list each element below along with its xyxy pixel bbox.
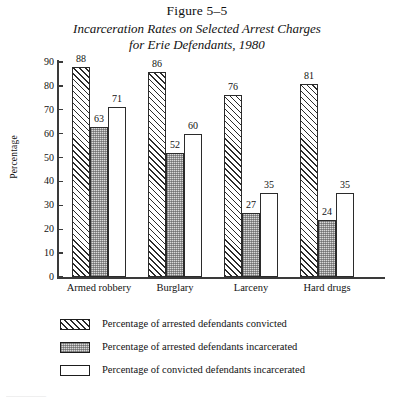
y-tick-0 bbox=[57, 276, 63, 277]
y-tick-80 bbox=[57, 85, 63, 86]
y-tick-label-80: 80 bbox=[28, 81, 54, 91]
bar bbox=[336, 193, 354, 277]
y-tick-label-50: 50 bbox=[28, 153, 54, 163]
bar-value-label: 86 bbox=[140, 59, 174, 69]
bar-value-label: 76 bbox=[216, 82, 250, 92]
bar-value-label: 88 bbox=[64, 54, 98, 64]
bar bbox=[148, 72, 166, 277]
x-axis-line bbox=[57, 277, 385, 279]
y-tick-label-0: 0 bbox=[28, 272, 54, 282]
y-tick-40 bbox=[57, 181, 63, 182]
category-label-hard-drugs: Hard drugs bbox=[272, 282, 382, 293]
y-tick-label-40: 40 bbox=[28, 176, 54, 186]
y-tick-label-20: 20 bbox=[28, 224, 54, 234]
bar bbox=[260, 193, 278, 277]
legend-item: Percentage of arrested defendants incarc… bbox=[0, 340, 394, 360]
y-tick-20 bbox=[57, 229, 63, 230]
bar bbox=[90, 127, 108, 278]
y-axis-label: Percentage bbox=[9, 122, 19, 192]
legend-swatch-hatch bbox=[60, 319, 90, 330]
bar bbox=[108, 107, 126, 277]
y-tick-label-10: 10 bbox=[28, 248, 54, 258]
legend-label: Percentage of arrested defendants convic… bbox=[102, 317, 287, 331]
legend-label: Percentage of convicted defendants incar… bbox=[102, 363, 305, 377]
bar-value-label: 35 bbox=[252, 180, 286, 190]
y-tick-70 bbox=[57, 109, 63, 110]
bar-value-label: 71 bbox=[100, 94, 134, 104]
y-tick-50 bbox=[57, 157, 63, 158]
bar bbox=[184, 134, 202, 277]
y-tick-90 bbox=[57, 61, 63, 62]
bar bbox=[242, 213, 260, 278]
bar bbox=[224, 95, 242, 277]
y-tick-60 bbox=[57, 133, 63, 134]
bar-value-label: 60 bbox=[176, 121, 210, 131]
bar-chart-plot-area: Percentage 9080706050403020100 886371865… bbox=[0, 0, 394, 300]
legend-swatch-open bbox=[60, 365, 90, 376]
bar-value-label: 35 bbox=[328, 180, 362, 190]
legend-item: Percentage of convicted defendants incar… bbox=[0, 363, 394, 383]
y-tick-label-60: 60 bbox=[28, 129, 54, 139]
y-tick-label-30: 30 bbox=[28, 200, 54, 210]
legend-item: Percentage of arrested defendants convic… bbox=[0, 317, 394, 337]
y-tick-label-90: 90 bbox=[28, 57, 54, 67]
bar bbox=[72, 67, 90, 277]
y-tick-label-70: 70 bbox=[28, 105, 54, 115]
bar-value-label: 81 bbox=[292, 71, 326, 81]
y-tick-30 bbox=[57, 205, 63, 206]
bar bbox=[300, 84, 318, 278]
legend-label: Percentage of arrested defendants incarc… bbox=[102, 340, 297, 354]
bar bbox=[166, 153, 184, 277]
y-tick-10 bbox=[57, 252, 63, 253]
legend-swatch-stipple bbox=[60, 342, 90, 353]
y-axis-line bbox=[57, 60, 59, 278]
bar bbox=[318, 220, 336, 277]
clipped-text-fragment: ———— bbox=[6, 390, 256, 399]
